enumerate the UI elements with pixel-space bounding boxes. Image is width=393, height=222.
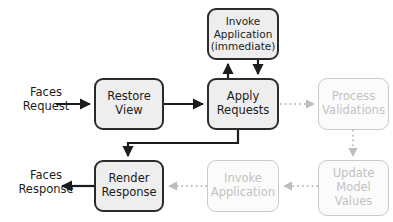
node-label: Apply Requests [215,90,272,118]
edge-apply-requests-to-render-response [128,130,238,156]
io-label-faces-request: Faces Request [14,85,78,114]
node-label: Restore View [105,90,153,118]
node-label: Render Response [99,172,158,200]
node-label: Process Validations [320,90,387,118]
node-render-response[interactable]: Render Response [94,160,164,212]
node-update-model-values[interactable]: Update Model Values [318,160,389,216]
io-label-faces-response: Faces Response [8,168,84,197]
node-label: Update Model Values [331,167,377,208]
node-label: Invoke Application [209,172,277,200]
node-apply-requests[interactable]: Apply Requests [207,78,279,130]
node-invoke-application[interactable]: Invoke Application [207,160,279,212]
node-invoke-application-immediate[interactable]: Invoke Application (immediate) [207,8,279,60]
node-restore-view[interactable]: Restore View [94,78,164,130]
jsf-lifecycle-diagram: Faces Request Faces Response Invoke Appl… [0,0,393,222]
node-label: Invoke Application (immediate) [209,15,278,53]
node-process-validations[interactable]: Process Validations [318,78,389,130]
